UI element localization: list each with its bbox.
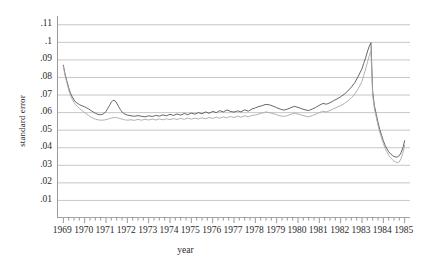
x-axis-title: year [0,245,427,255]
data-series-lines [58,16,410,218]
x-axis-title-text: year [177,245,193,255]
y-tick-label: .07 [6,90,52,100]
chart-figure: standard error .11.1.09.08.07.06.05.04.0… [0,0,427,271]
y-tick-label: .03 [6,160,52,170]
y-tick-label: .04 [6,142,52,152]
y-tick-label: .06 [6,107,52,117]
y-tick-label: .09 [6,54,52,64]
y-tick-label: .1 [6,37,52,47]
y-tick-label: .08 [6,72,52,82]
x-tick-label: 1985 [389,226,419,236]
x-axis-tick-labels: 1969197019711972197319741975197619771978… [0,222,427,242]
y-tick-label: .01 [6,195,52,205]
y-tick-label: .02 [6,177,52,187]
y-tick-label: .05 [6,125,52,135]
y-tick-label: .11 [6,19,52,29]
plot-area [57,16,409,218]
